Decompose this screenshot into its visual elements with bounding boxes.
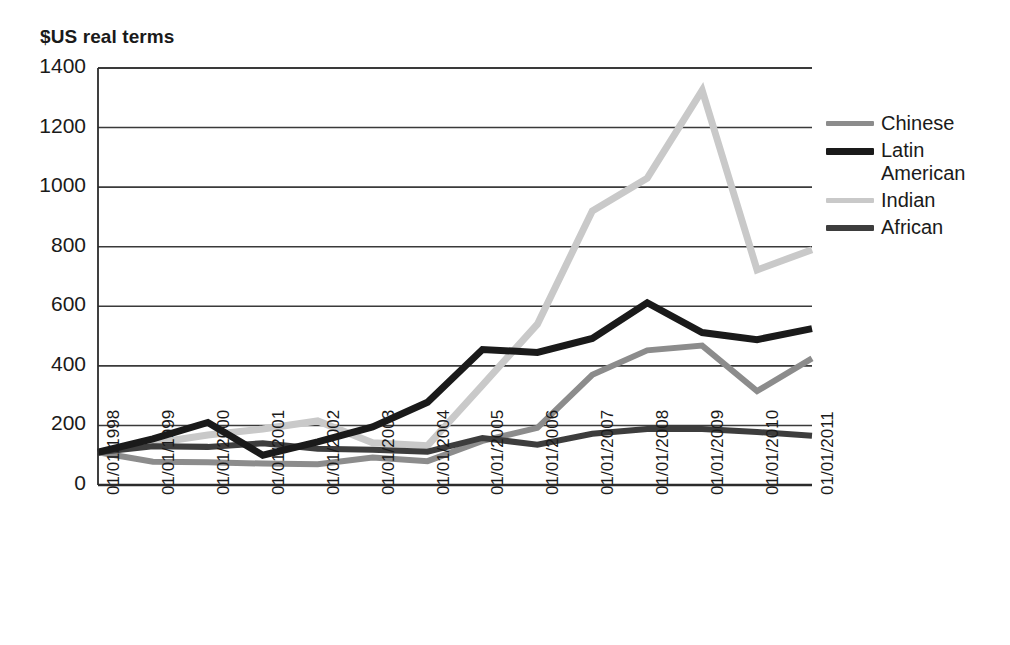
y-tick-label: 1200	[16, 114, 86, 138]
legend-item[interactable]: Latin American	[826, 139, 1006, 185]
legend-item[interactable]: Chinese	[826, 112, 1006, 135]
x-tick-label: 01/01/2009	[708, 410, 728, 495]
y-tick-label: 0	[16, 471, 86, 495]
y-tick-label: 600	[16, 292, 86, 316]
legend-label: Indian	[881, 189, 936, 212]
legend-label: Chinese	[881, 112, 954, 135]
x-tick-label: 01/01/2010	[763, 410, 783, 495]
legend-label: Latin American	[881, 139, 965, 185]
x-tick-label: 01/01/2000	[214, 410, 234, 495]
x-tick-label: 01/01/2006	[543, 410, 563, 495]
legend-swatch-icon	[826, 198, 874, 203]
x-tick-label: 01/01/2005	[488, 410, 508, 495]
legend-item[interactable]: African	[826, 216, 1006, 239]
chart-legend: ChineseLatin AmericanIndianAfrican	[826, 112, 1006, 243]
x-tick-label: 01/01/1998	[104, 410, 124, 495]
legend-swatch-icon	[826, 148, 874, 155]
legend-item[interactable]: Indian	[826, 189, 1006, 212]
y-tick-label: 800	[16, 233, 86, 257]
x-tick-label: 01/01/1999	[159, 410, 179, 495]
chart-container: $US real terms 0200400600800100012001400…	[0, 0, 1010, 645]
y-tick-label: 200	[16, 411, 86, 435]
series-group	[98, 90, 812, 464]
series-line-indian	[98, 90, 812, 452]
x-tick-label: 01/01/2002	[324, 410, 344, 495]
x-tick-label: 01/01/2001	[269, 410, 289, 495]
x-tick-label: 01/01/2011	[818, 411, 838, 495]
plot-area	[0, 0, 1010, 645]
legend-swatch-icon	[826, 225, 874, 231]
x-tick-label: 01/01/2003	[379, 410, 399, 495]
legend-swatch-icon	[826, 121, 874, 126]
y-tick-label: 1000	[16, 173, 86, 197]
x-tick-label: 01/01/2007	[598, 410, 618, 495]
x-tick-label: 01/01/2008	[653, 410, 673, 495]
legend-label: African	[881, 216, 943, 239]
x-tick-label: 01/01/2004	[434, 410, 454, 495]
y-tick-label: 400	[16, 352, 86, 376]
y-tick-label: 1400	[16, 54, 86, 78]
